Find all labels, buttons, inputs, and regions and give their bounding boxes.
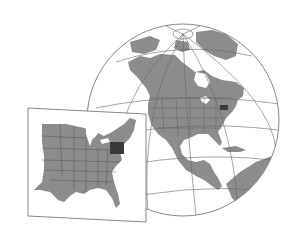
locator-map-figure [0, 0, 300, 234]
highlight-state-inset [110, 142, 124, 154]
inset-map [0, 0, 300, 234]
